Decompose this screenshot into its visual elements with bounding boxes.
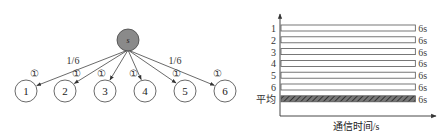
value-label: 6s — [418, 47, 427, 58]
category-label: 5 — [271, 70, 276, 81]
edge-step-marker: ① — [213, 68, 222, 79]
leaf-node-label: 5 — [182, 85, 188, 97]
leaf-node-label: 1 — [23, 85, 29, 97]
category-label: 4 — [271, 58, 276, 69]
edge-step-marker: ① — [129, 68, 138, 79]
bar-3 — [281, 49, 415, 55]
bar-2 — [281, 37, 415, 43]
communication-time-chart: 16s26s36s46s56s66s平均6s通信时间/s — [256, 14, 436, 132]
root-node-label: s — [126, 36, 129, 45]
value-label: 6s — [418, 94, 427, 105]
value-label: 6s — [418, 58, 427, 69]
edge-step-marker: ① — [72, 68, 81, 79]
category-label: 3 — [271, 47, 276, 58]
leaf-node-label: 4 — [142, 85, 148, 97]
bar-4 — [281, 60, 415, 66]
bar-average — [281, 96, 415, 102]
leaf-node-label: 6 — [222, 85, 228, 97]
bar-1 — [281, 25, 415, 31]
x-axis-label: 通信时间/s — [333, 120, 380, 132]
value-label: 6s — [418, 82, 427, 93]
value-label: 6s — [418, 70, 427, 81]
bar-6 — [281, 84, 415, 90]
edge-arrow-3 — [110, 50, 128, 80]
category-label: 2 — [271, 35, 276, 46]
edge-step-marker: ① — [30, 68, 39, 79]
figure: s1①2①3①4①5①6①1/61/6 16s26s36s46s56s66s平均… — [0, 0, 442, 136]
edge-weight-label: 1/6 — [169, 55, 182, 66]
broadcast-tree: s1①2①3①4①5①6①1/61/6 — [15, 29, 236, 102]
category-label: 6 — [271, 82, 276, 93]
edge-step-marker: ① — [172, 68, 181, 79]
edge-step-marker: ① — [97, 68, 106, 79]
leaf-node-label: 3 — [102, 85, 108, 97]
leaf-node-label: 2 — [62, 85, 68, 97]
value-label: 6s — [418, 35, 427, 46]
category-label: 1 — [271, 23, 276, 34]
edge-arrow-1 — [37, 50, 128, 86]
category-label: 平均 — [256, 94, 276, 105]
edge-weight-label: 1/6 — [67, 55, 80, 66]
bar-5 — [281, 72, 415, 78]
value-label: 6s — [418, 23, 427, 34]
